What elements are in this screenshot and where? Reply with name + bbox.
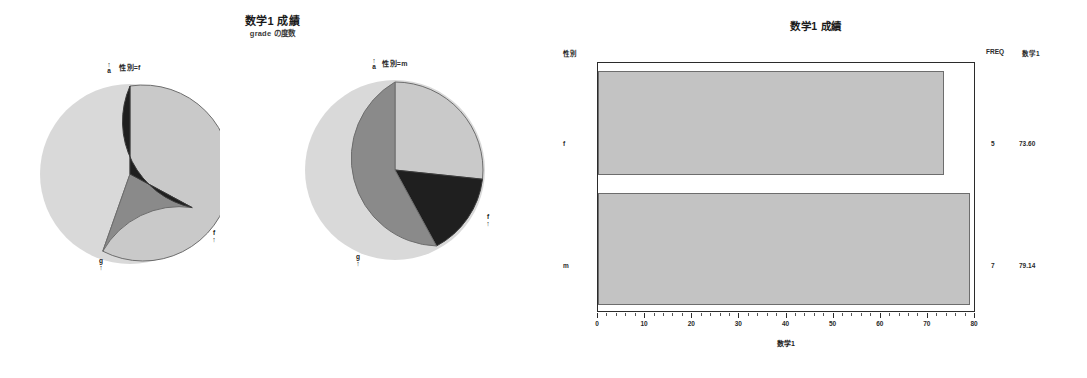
x-tick-label: 0 [595,320,599,327]
bar-chart-panel: 数学1 成績 性別 FREQ 数学1 f m 5 73.60 7 79.14 0… [545,0,1087,378]
x-tick-minor [946,313,947,316]
pie-slice-label-g-female: g ↑ [90,258,112,270]
x-tick-minor [729,313,730,316]
freq-column-header: FREQ [986,48,1004,55]
x-tick-minor [908,313,909,316]
pie-disc-male[interactable] [305,80,485,260]
x-tick-minor [672,313,673,316]
mean-column-header: 数学1 [1022,48,1040,58]
x-tick-minor [710,313,711,316]
pie-label-pointer-icon: ↑ [477,221,499,227]
x-tick-minor [720,313,721,316]
x-tick-minor [955,313,956,316]
x-tick-minor [814,313,815,316]
freq-value-m: 7 [991,262,995,269]
x-tick-minor [851,313,852,316]
freq-value-f: 5 [991,140,995,147]
pie-panel-title: 数学1 成績 [0,12,545,28]
x-tick-minor [842,313,843,316]
x-tick-label: 80 [970,320,977,327]
x-tick-label: 20 [688,320,695,327]
x-tick-major [597,313,598,318]
x-tick-major [644,313,645,318]
x-tick-minor [625,313,626,316]
x-tick-label: 60 [876,320,883,327]
y-axis-title: 性別 [563,48,577,58]
x-tick-major [786,313,787,318]
x-tick-minor [606,313,607,316]
mean-value-f: 73.60 [1019,140,1035,147]
x-tick-minor [654,313,655,316]
bar-plot-area [597,62,975,312]
x-tick-major [691,313,692,318]
x-tick-minor [701,313,702,316]
x-tick-minor [870,313,871,316]
bar-row-m[interactable] [598,193,970,305]
x-tick-minor [899,313,900,316]
x-tick-major [880,313,881,318]
x-tick-minor [616,313,617,316]
x-tick-minor [823,313,824,316]
pie-slice-label-g-male: g ↑ [347,254,369,266]
x-tick-label: 30 [735,320,742,327]
y-tick-label-m: m [563,262,569,269]
pie-panel-subtitle: grade の度数 [0,27,545,38]
pie-slice-label-a-male: ↑ a [363,58,385,70]
x-tick-minor [804,313,805,316]
pie-label-pointer-icon: ↑ [90,265,112,271]
x-tick-label: 70 [923,320,930,327]
x-tick-minor [748,313,749,316]
x-tick-minor [663,313,664,316]
pie-disc-female[interactable] [40,84,220,264]
mean-value-m: 79.14 [1019,262,1035,269]
x-tick-label: 10 [641,320,648,327]
x-axis-tick-labels: 01020304050607080 [545,320,1087,332]
pie-group-male: 性別=m ↑ a g ↑ f ↑ [305,58,485,263]
pie-label-pointer-icon: ↑ [347,261,369,267]
bar-row-f[interactable] [598,71,944,175]
bar-panel-title: 数学1 成績 [545,18,1087,33]
x-tick-minor [635,313,636,316]
x-tick-minor [682,313,683,316]
pie-slice-label-f-male: f ↑ [477,214,499,226]
x-tick-minor [861,313,862,316]
pie-chart-panel: 数学1 成績 grade の度数 性別=f ↑ a g ↑ f ↑ [0,0,545,378]
x-tick-minor [889,313,890,316]
x-tick-minor [767,313,768,316]
x-tick-major [833,313,834,318]
x-tick-minor [965,313,966,316]
pie-label-pointer-icon: ↑ [203,237,225,243]
x-tick-major [974,313,975,318]
x-tick-major [738,313,739,318]
pie-heading-female: 性別=f [40,62,220,72]
x-tick-minor [757,313,758,316]
x-tick-minor [936,313,937,316]
y-tick-label-f: f [563,140,565,147]
x-tick-minor [795,313,796,316]
x-tick-minor [917,313,918,316]
pie-group-female: 性別=f ↑ a g ↑ f ↑ [40,62,220,267]
x-tick-minor [776,313,777,316]
pie-slice-label-f-female: f ↑ [203,230,225,242]
x-tick-major [927,313,928,318]
pie-heading-male: 性別=m [305,58,485,68]
pie-slice-label-a-female: ↑ a [98,62,120,74]
x-tick-label: 50 [829,320,836,327]
x-tick-label: 40 [782,320,789,327]
x-axis-title: 数学1 [597,338,975,348]
